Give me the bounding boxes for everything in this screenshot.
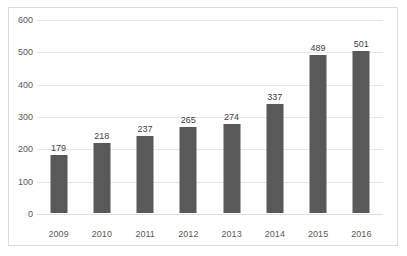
x-axis-tick-label: 2016: [340, 229, 383, 240]
x-axis: 20092010201120122013201420152016: [37, 8, 383, 247]
x-axis-tick-label: 2011: [124, 229, 167, 240]
y-axis-tick-label: 100: [7, 177, 33, 187]
y-axis-tick-label: 0: [7, 209, 33, 219]
y-axis-tick-label: 600: [7, 15, 33, 25]
x-axis-tick-label: 2009: [37, 229, 80, 240]
y-axis-tick-label: 300: [7, 112, 33, 122]
x-axis-tick-label: 2010: [80, 229, 123, 240]
y-axis-tick-label: 500: [7, 47, 33, 57]
y-axis-tick-label: 400: [7, 80, 33, 90]
y-axis: 0100200300400500600: [9, 20, 33, 214]
x-axis-tick-label: 2012: [167, 229, 210, 240]
chart-frame: 0100200300400500600 17921823726527433748…: [8, 7, 398, 246]
x-axis-tick-label: 2015: [297, 229, 340, 240]
x-axis-tick-label: 2013: [210, 229, 253, 240]
x-axis-tick-label: 2014: [253, 229, 296, 240]
y-axis-tick-label: 200: [7, 144, 33, 154]
